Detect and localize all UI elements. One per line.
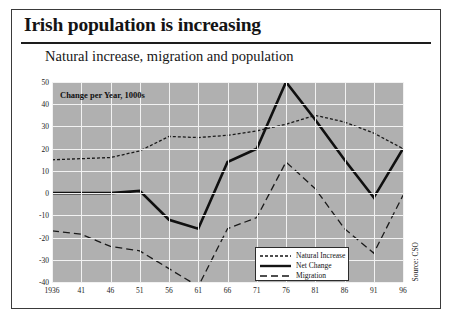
source-label: Source: CSO — [411, 242, 420, 281]
legend-swatch-dashed — [259, 271, 292, 280]
x-tick-label: 1936 — [45, 286, 60, 295]
legend-item: Natural Increase — [256, 251, 348, 260]
gridline-vertical — [111, 82, 112, 282]
gridline-vertical — [403, 82, 404, 282]
slide-frame: Irish population is increasing Natural i… — [11, 9, 441, 309]
plot-area — [52, 82, 403, 282]
x-tick-label: 96 — [399, 286, 407, 295]
legend-label: Natural Increase — [296, 251, 345, 260]
x-tick-label: 91 — [370, 286, 378, 295]
x-axis-labels: 1936414651566166717681869196 — [52, 286, 403, 300]
x-tick-label: 76 — [282, 286, 290, 295]
gridline-vertical — [81, 82, 82, 282]
y-tick-label: 30 — [15, 122, 49, 131]
y-tick-label: 20 — [15, 144, 49, 153]
x-tick-label: 71 — [253, 286, 261, 295]
gridline-horizontal — [52, 282, 403, 283]
legend-item: Migration — [256, 271, 348, 280]
gridline-vertical — [169, 82, 170, 282]
axis-note-label: Change per Year, 1000s — [60, 90, 145, 100]
y-tick-label: -20 — [15, 233, 49, 242]
y-tick-label: 0 — [15, 189, 49, 198]
gridline-vertical — [374, 82, 375, 282]
y-tick-label: 50 — [15, 78, 49, 87]
y-tick-label: 10 — [15, 166, 49, 175]
gridline-vertical — [52, 82, 53, 282]
x-tick-label: 46 — [107, 286, 115, 295]
chart-legend: Natural IncreaseNet ChangeMigration — [255, 247, 349, 281]
gridline-vertical — [198, 82, 199, 282]
x-tick-label: 51 — [136, 286, 144, 295]
gridline-vertical — [140, 82, 141, 282]
legend-swatch-solid — [259, 261, 292, 270]
legend-swatch-dotted — [259, 251, 292, 260]
legend-label: Net Change — [296, 261, 332, 270]
y-tick-label: -30 — [15, 255, 49, 264]
y-axis-labels: 50403020100-10-20-30-40 — [12, 82, 49, 282]
x-tick-label: 61 — [195, 286, 203, 295]
x-tick-label: 81 — [312, 286, 320, 295]
y-tick-label: 40 — [15, 100, 49, 109]
x-tick-label: 66 — [224, 286, 232, 295]
legend-item: Net Change — [256, 261, 348, 270]
chart-container: 50403020100-10-20-30-40 Change per Year,… — [12, 10, 442, 310]
x-tick-label: 86 — [341, 286, 349, 295]
y-tick-label: -10 — [15, 211, 49, 220]
legend-label: Migration — [296, 271, 326, 280]
x-tick-label: 56 — [165, 286, 173, 295]
gridline-vertical — [228, 82, 229, 282]
x-tick-label: 41 — [78, 286, 86, 295]
